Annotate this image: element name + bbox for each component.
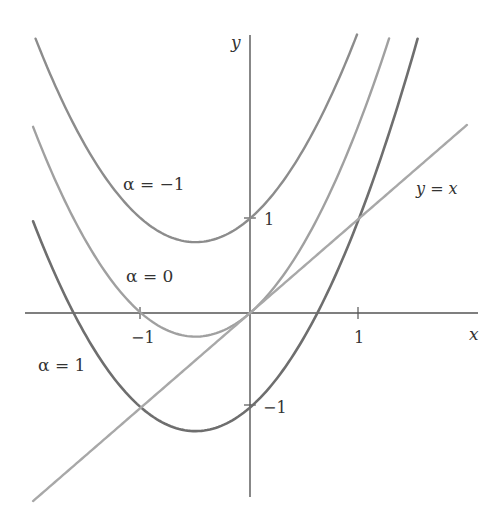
label-alpha-1: α = 1 xyxy=(38,355,85,375)
label-y-equals-x: y = x xyxy=(415,179,458,198)
x-tick-label-1: 1 xyxy=(354,328,364,347)
y-tick-label-neg1: −1 xyxy=(263,398,287,417)
y-axis-label: y xyxy=(230,32,241,52)
label-alpha-neg1: α = −1 xyxy=(123,174,185,194)
curve-alpha-neg1 xyxy=(36,35,357,243)
x-axis-label: x xyxy=(469,324,479,344)
x-tick-label-neg1: −1 xyxy=(131,328,155,347)
function-plot: y x −1 1 1 −1 α = −1 α = 0 α = 1 y = x xyxy=(0,0,501,519)
label-alpha-0: α = 0 xyxy=(126,266,173,286)
y-tick-label-1: 1 xyxy=(264,210,274,229)
